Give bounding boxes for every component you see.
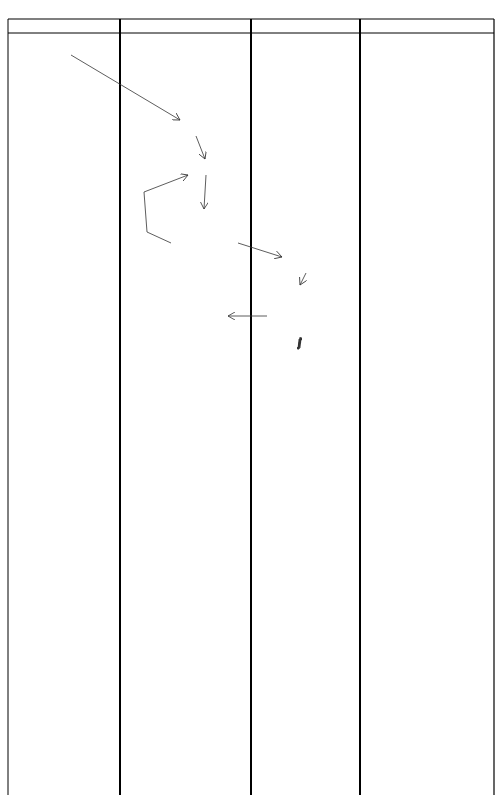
edge-available-to-request (238, 243, 282, 257)
edge-request-to-ismessage (300, 273, 306, 285)
edge-types-to-sends (196, 136, 205, 159)
transitions (71, 55, 306, 350)
activity-diagram (0, 0, 497, 798)
edge-start-to-types-query (71, 55, 180, 120)
edge-sends-to-checks-network (204, 175, 206, 209)
edge-not-available-loop (144, 175, 188, 243)
swimlane-frame (8, 19, 494, 795)
